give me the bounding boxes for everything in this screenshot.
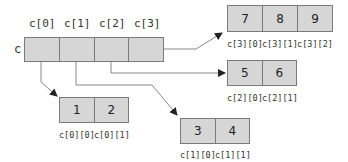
header-c3: c[3]: [134, 17, 161, 30]
element-label: c[1][0]: [180, 150, 215, 160]
element-label: c[3][0]: [227, 39, 262, 49]
value-cell: 9: [298, 6, 332, 31]
element-label: c[3][2]: [297, 39, 333, 49]
header-c1: c[1]: [64, 17, 91, 30]
element-label: c[0][0]: [59, 130, 94, 140]
pointer-cell-2: [95, 38, 130, 61]
row-array-3: 7 8 9: [227, 5, 333, 32]
element-label: c[0][1]: [94, 130, 129, 140]
row-array-2: 5 6: [227, 60, 297, 86]
value-cell: 7: [228, 6, 263, 31]
value-cell: 4: [216, 119, 250, 143]
value-cell: 2: [95, 98, 129, 122]
header-c2: c[2]: [99, 17, 126, 30]
value-cell: 1: [60, 98, 95, 122]
element-label: c[3][1]: [262, 39, 297, 49]
value-cell: 3: [181, 119, 216, 143]
header-c0: c[0]: [29, 17, 56, 30]
element-label: c[2][1]: [262, 93, 297, 103]
row-array-0: 1 2: [59, 97, 129, 123]
element-label: c[1][1]: [215, 150, 250, 160]
pointer-array-c: [24, 37, 164, 62]
value-cell: 6: [263, 61, 297, 85]
element-label: c[2][0]: [227, 93, 262, 103]
value-cell: 8: [263, 6, 298, 31]
pointer-cell-3: [129, 38, 163, 61]
array-name-label: c: [14, 42, 21, 56]
pointer-cell-0: [25, 38, 60, 61]
row-array-1: 3 4: [180, 118, 250, 144]
value-cell: 5: [228, 61, 263, 85]
pointer-cell-1: [60, 38, 95, 61]
